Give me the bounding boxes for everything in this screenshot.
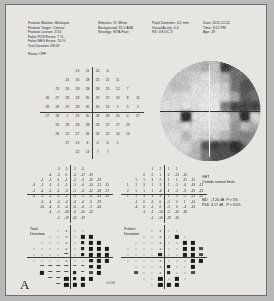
grid-value: -2 xyxy=(33,190,36,193)
grid-value: 25 xyxy=(96,80,100,83)
grid-value: 28 xyxy=(96,89,100,92)
probability-symbol xyxy=(33,260,34,261)
grid-value: -15 xyxy=(183,174,187,177)
probability-symbol xyxy=(168,242,169,243)
grid-value: 4 xyxy=(168,190,170,193)
header-column-reliability: Fixation Monitor: BlinkspotFixation Targ… xyxy=(28,21,69,49)
probability-symbol xyxy=(105,246,109,250)
probability-symbol xyxy=(160,242,161,243)
grid-value: -6 xyxy=(73,206,76,209)
probability-symbol xyxy=(176,230,177,231)
grid-value: 8 xyxy=(127,98,129,101)
probability-symbol xyxy=(152,266,153,267)
grid-value: -17 xyxy=(105,190,109,193)
grid-value: -1 xyxy=(151,206,154,209)
grid-value: 3 xyxy=(176,196,178,199)
vertical-axis xyxy=(164,225,165,289)
grid-value: -4 xyxy=(41,190,44,193)
probability-symbol xyxy=(199,258,203,262)
probability-symbol xyxy=(168,236,169,237)
grid-value: -19 xyxy=(97,179,101,182)
grid-value: -16 xyxy=(158,217,162,220)
probability-symbol xyxy=(152,260,153,261)
grid-value: 20 xyxy=(116,98,120,101)
header-column-patient: Pupil Diameter: 4.2 mmVisual Acuity: 0.4… xyxy=(152,21,189,35)
probability-symbol xyxy=(160,260,161,261)
grid-value: 1 xyxy=(135,196,137,199)
probability-symbol xyxy=(89,234,93,238)
probability-symbol xyxy=(183,252,187,256)
probability-symbol xyxy=(89,259,93,263)
probability-symbol xyxy=(40,265,44,269)
grid-value: -1 xyxy=(41,185,44,188)
grid-value: -1 xyxy=(135,201,138,204)
grid-value: -11 xyxy=(183,179,187,182)
probability-symbol xyxy=(160,236,161,237)
probability-symbol xyxy=(89,276,93,280)
probability-symbol xyxy=(136,260,137,261)
grid-value: -1 xyxy=(57,190,60,193)
grid-value: 28 xyxy=(66,124,70,127)
grid-value: 1 xyxy=(160,174,162,177)
probability-symbol xyxy=(175,282,179,286)
grid-value: -10 xyxy=(89,185,93,188)
probability-symbol xyxy=(65,271,69,275)
grid-value: 30 xyxy=(86,106,90,109)
grid-value: -1 xyxy=(73,169,76,172)
probability-symbol xyxy=(191,264,195,268)
grid-value: -18 xyxy=(97,190,101,193)
grid-value: 28 xyxy=(76,89,80,92)
probability-symbol xyxy=(167,265,171,269)
grid-value: 4 xyxy=(97,142,99,145)
patient-line-0: Pupil Diameter: 4.2 mm xyxy=(152,21,189,26)
grid-value: 28 xyxy=(55,106,59,109)
grid-value: -1 xyxy=(151,217,154,220)
grid-value: -4 xyxy=(49,212,52,215)
probability-symbol xyxy=(191,240,195,244)
vertical-axis xyxy=(70,165,71,223)
grid-value: -1 xyxy=(49,185,52,188)
grid-value: 17 xyxy=(116,124,120,127)
grid-value: -6 xyxy=(73,212,76,215)
grid-value: -3 xyxy=(57,174,60,177)
grid-value: -14 xyxy=(97,196,101,199)
probability-symbol xyxy=(168,278,169,279)
index-name: PSD xyxy=(202,203,211,208)
grid-value: -19 xyxy=(97,201,101,204)
figure-page: Fixation Monitor: BlinkspotFixation Targ… xyxy=(0,0,274,301)
grid-value: 23 xyxy=(76,142,80,145)
probability-symbol xyxy=(176,248,177,249)
grid-value: 5 xyxy=(117,106,119,109)
grid-value: 28 xyxy=(45,106,49,109)
patient-line-2: RX: DS DC X xyxy=(152,30,189,35)
grid-value: 27 xyxy=(66,142,70,145)
probability-symbol xyxy=(199,253,203,257)
grid-value: 2 xyxy=(168,185,170,188)
probability-symbol xyxy=(144,254,145,255)
grid-value: -4 xyxy=(65,201,68,204)
index-p: P < 0.5% xyxy=(226,203,242,208)
reliability-line-5: Test Duration: 08:09 xyxy=(28,44,69,49)
grid-value: -2 xyxy=(41,196,44,199)
probability-symbol xyxy=(97,246,101,250)
grid-value: -3 xyxy=(73,196,76,199)
grid-value: 25 xyxy=(106,89,110,92)
grid-value: 1 xyxy=(117,142,119,145)
grid-value: -19 xyxy=(105,196,109,199)
grid-value: 0 xyxy=(176,206,178,209)
probability-symbol xyxy=(191,258,195,262)
probability-symbol xyxy=(97,264,101,268)
datetime-line-2: Age: 29 xyxy=(203,30,230,35)
probability-symbol xyxy=(175,276,179,280)
global-indices-table: MD-7.20 dBP < 5%PSD6.17 dBP < 0.5% xyxy=(202,198,243,209)
grid-value: -4 xyxy=(184,206,187,209)
probability-symbol xyxy=(74,242,75,243)
grid-value: 13 xyxy=(86,151,90,154)
grid-value: -18 xyxy=(64,212,68,215)
datetime-line-0: Date: 2011-12-22 xyxy=(203,21,230,26)
grid-value: -5 xyxy=(57,217,60,220)
grid-value: -4 xyxy=(65,206,68,209)
probability-symbol xyxy=(176,260,177,261)
global-indices: MD-7.20 dBP < 5%PSD6.17 dBP < 0.5% xyxy=(202,198,243,209)
grid-value: -4 xyxy=(81,190,84,193)
